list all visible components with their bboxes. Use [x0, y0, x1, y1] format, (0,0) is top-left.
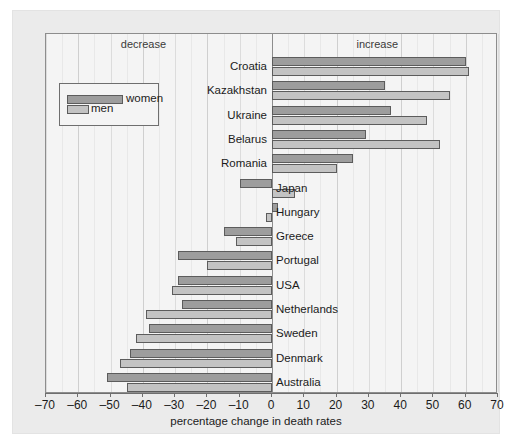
bar-men	[207, 261, 272, 270]
x-tick-label: –50	[100, 398, 120, 412]
legend-label-men: men	[91, 102, 113, 114]
bar-men	[120, 359, 272, 368]
category-label: Croatia	[230, 59, 267, 73]
x-tick-label: 70	[490, 398, 503, 412]
bar-row: Netherlands	[46, 299, 496, 323]
x-tick	[336, 393, 337, 397]
category-label: USA	[276, 278, 300, 292]
bar-women	[149, 324, 272, 333]
chart-panel: CroatiaKazakhstanUkraineBelarusRomaniaJa…	[12, 10, 500, 434]
x-tick	[110, 393, 111, 397]
x-tick	[142, 393, 143, 397]
x-tick-label: 60	[458, 398, 471, 412]
category-label: Australia	[276, 375, 321, 389]
bar-row: Japan	[46, 178, 496, 202]
x-tick-label: 40	[393, 398, 406, 412]
x-tick	[400, 393, 401, 397]
x-tick-label: 50	[426, 398, 439, 412]
bar-row: Belarus	[46, 129, 496, 153]
bar-men	[272, 91, 450, 100]
bar-men	[272, 116, 427, 125]
x-tick	[45, 393, 46, 397]
bar-men	[146, 310, 272, 319]
bar-women	[272, 106, 391, 115]
bar-row: Greece	[46, 226, 496, 250]
x-tick	[77, 393, 78, 397]
x-tick	[465, 393, 466, 397]
bar-men	[266, 213, 272, 222]
x-tick-label: –30	[164, 398, 184, 412]
category-label: Romania	[221, 156, 267, 170]
bar-women	[182, 300, 272, 309]
x-tick	[271, 393, 272, 397]
x-tick	[432, 393, 433, 397]
category-label: Hungary	[276, 205, 319, 219]
bar-row: Romania	[46, 153, 496, 177]
bar-women	[107, 373, 272, 382]
gridline	[498, 34, 499, 392]
x-tick-label: –20	[196, 398, 216, 412]
x-tick	[206, 393, 207, 397]
bar-women	[178, 251, 272, 260]
category-label: Ukraine	[227, 108, 267, 122]
bar-women	[272, 57, 466, 66]
bar-women	[240, 179, 272, 188]
bar-women	[224, 227, 272, 236]
bar-men	[272, 164, 337, 173]
x-tick-label: –40	[132, 398, 152, 412]
bar-row: Hungary	[46, 202, 496, 226]
category-label: Portugal	[276, 253, 319, 267]
category-label: Belarus	[228, 132, 267, 146]
category-label: Denmark	[276, 351, 323, 365]
x-tick-label: 10	[297, 398, 310, 412]
bar-women	[272, 130, 366, 139]
bar-women	[272, 154, 353, 163]
annotation-decrease: decrease	[121, 38, 166, 50]
bar-men	[236, 237, 272, 246]
category-label: Kazakhstan	[207, 83, 267, 97]
bar-row: Sweden	[46, 323, 496, 347]
chart-screenshot: CroatiaKazakhstanUkraineBelarusRomaniaJa…	[0, 0, 509, 443]
bar-men	[272, 67, 469, 76]
bar-women	[178, 276, 272, 285]
x-tick	[303, 393, 304, 397]
x-axis-label: percentage change in death rates	[13, 415, 499, 427]
chart-legend: women men	[59, 83, 159, 126]
x-tick-label: 0	[268, 398, 275, 412]
category-label: Sweden	[276, 326, 318, 340]
bar-women	[130, 349, 272, 358]
category-label: Greece	[276, 229, 314, 243]
bar-men	[127, 383, 272, 392]
category-label: Japan	[276, 181, 307, 195]
bar-row: Denmark	[46, 348, 496, 372]
x-tick-label: 20	[329, 398, 342, 412]
x-tick-label: –60	[67, 398, 87, 412]
legend-label-women: women	[126, 92, 163, 104]
bar-men	[272, 140, 440, 149]
x-tick-label: –10	[229, 398, 249, 412]
x-tick	[239, 393, 240, 397]
x-tick	[174, 393, 175, 397]
bar-men	[172, 286, 272, 295]
annotation-increase: increase	[357, 38, 399, 50]
legend-swatch-men	[67, 105, 89, 114]
x-tick	[497, 393, 498, 397]
x-tick-label: 30	[361, 398, 374, 412]
bar-row: USA	[46, 275, 496, 299]
bar-women	[272, 81, 385, 90]
x-tick	[368, 393, 369, 397]
x-tick-label: –70	[35, 398, 55, 412]
bar-row: Croatia	[46, 56, 496, 80]
bar-men	[136, 334, 272, 343]
category-label: Netherlands	[276, 302, 338, 316]
bar-row: Portugal	[46, 250, 496, 274]
